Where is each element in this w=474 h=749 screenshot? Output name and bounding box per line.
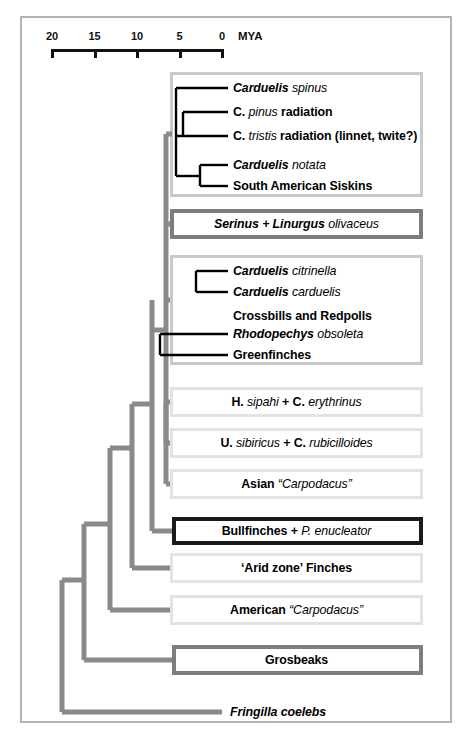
taxon-label-crossbills-redpolls: Crossbills and Redpolls [233, 309, 372, 323]
taxon-label-rhodopechys-obsoleta: Rhodopechys obsoleta [233, 327, 363, 341]
taxon-label-u-sibiricus-c-rubicilloides: U. sibiricus + C. rubicilloides [172, 436, 421, 450]
taxon-label-c-tristis-radiation: C. tristis radiation (linnet, twite?) [233, 129, 417, 143]
taxon-label-grosbeaks: Grosbeaks [172, 653, 421, 667]
taxon-label-serinus-linurgus: Serinus + Linurgus olivaceus [172, 217, 421, 231]
taxon-label-carduelis-notata: Carduelis notata [233, 158, 326, 172]
taxon-label-greenfinches: Greenfinches [233, 348, 311, 362]
taxon-label-carduelis-citrinella: Carduelis citrinella [233, 264, 336, 278]
taxon-label-h-sipahi-c-erythrinus: H. sipahi + C. erythrinus [172, 395, 421, 409]
figure-canvas: 20 15 10 5 0 MYA [0, 0, 474, 749]
taxon-label-c-pinus-radiation: C. pinus radiation [233, 105, 332, 119]
taxon-label-bullfinches-p-enucleator: Bullfinches + P. enucleator [172, 524, 421, 538]
taxon-label-asian-carpodacus: Asian “Carpodacus” [172, 477, 421, 491]
taxon-label-fringilla-coelebs: Fringilla coelebs [230, 705, 326, 719]
taxon-label-arid-zone-finches: ‘Arid zone’ Finches [172, 561, 421, 575]
taxon-label-south-american-siskins: South American Siskins [233, 179, 372, 193]
taxon-label-american-carpodacus: American “Carpodacus” [172, 603, 421, 617]
taxon-label-carduelis-spinus: Carduelis spinus [233, 81, 327, 95]
taxon-label-carduelis-carduelis: Carduelis carduelis [233, 285, 341, 299]
